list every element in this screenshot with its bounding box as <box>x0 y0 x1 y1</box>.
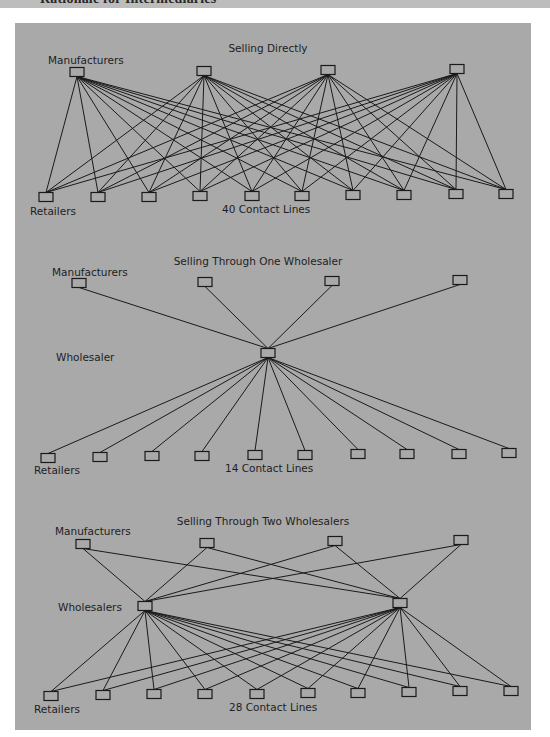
manufacturer-node <box>328 537 342 546</box>
contact-line <box>46 77 77 193</box>
manufacturer-node <box>72 279 86 288</box>
wholesaler-node <box>393 599 407 608</box>
contact-line <box>46 74 457 193</box>
retailer-node <box>295 192 309 201</box>
retailer-node <box>449 190 463 199</box>
retailer-node <box>142 193 156 202</box>
retailers-label: Retailers <box>34 464 80 476</box>
retailer-node <box>245 192 259 201</box>
diagram-selling-directly: Selling Directly Manufacturers Retailers… <box>30 42 513 217</box>
manufacturer-node <box>453 276 467 285</box>
diagram-one-wholesaler: Selling Through One Wholesaler Manufactu… <box>34 255 516 476</box>
retailer-node <box>351 689 365 698</box>
contact-line <box>51 608 400 692</box>
contact-line <box>205 608 400 690</box>
contact-line <box>328 75 353 191</box>
contact-line <box>302 74 457 192</box>
contact-line <box>268 358 459 450</box>
contact-line <box>46 75 328 193</box>
retailer-node <box>91 193 105 202</box>
diagram-title: Selling Through Two Wholesalers <box>177 515 349 527</box>
contact-line <box>51 611 145 692</box>
wholesaler-node <box>138 602 152 611</box>
retailer-node <box>504 687 518 696</box>
retailer-node <box>195 452 209 461</box>
contact-line <box>103 608 400 691</box>
contact-line <box>335 546 400 599</box>
retailer-node <box>193 192 207 201</box>
diagram-two-wholesalers: Selling Through Two Wholesalers Manufact… <box>34 515 518 715</box>
contact-line <box>77 77 456 190</box>
contact-lines <box>51 545 511 692</box>
retailer-node <box>198 690 212 699</box>
manufacturers-label: Manufacturers <box>55 525 131 537</box>
contact-lines <box>48 285 509 454</box>
manufacturer-node <box>200 539 214 548</box>
retailer-node <box>502 449 516 458</box>
retailer-node <box>351 450 365 459</box>
retailer-node <box>96 691 110 700</box>
contact-line <box>400 545 461 599</box>
contact-line <box>255 358 268 451</box>
manufacturer-node <box>197 67 211 76</box>
contact-line <box>200 75 328 192</box>
contact-line <box>77 77 252 192</box>
manufacturer-node <box>70 68 84 77</box>
retailer-node <box>452 450 466 459</box>
contact-line <box>268 358 305 451</box>
manufacturers-label: Manufacturers <box>48 54 124 66</box>
contact-line <box>77 77 200 192</box>
contact-line <box>308 608 400 689</box>
diagram-title: Selling Directly <box>228 42 307 54</box>
contact-lines <box>46 74 506 193</box>
contact-line <box>302 75 328 192</box>
retailer-node <box>402 688 416 697</box>
contact-lines-caption: 14 Contact Lines <box>225 462 313 474</box>
wholesaler-label: Wholesaler <box>56 351 115 363</box>
contact-line <box>152 358 268 452</box>
contact-line <box>268 358 509 449</box>
contact-line <box>268 358 407 450</box>
retailer-node <box>41 454 55 463</box>
retailer-node <box>147 690 161 699</box>
retailer-node <box>397 191 411 200</box>
retailer-node <box>248 451 262 460</box>
contact-line <box>204 76 252 192</box>
retailer-node <box>145 452 159 461</box>
contact-lines-caption: 40 Contact Lines <box>222 203 310 215</box>
retailers-label: Retailers <box>34 703 80 715</box>
contact-line <box>103 611 145 691</box>
manufacturer-node <box>454 536 468 545</box>
contact-line <box>456 74 457 190</box>
manufacturer-node <box>325 277 339 286</box>
manufacturer-node <box>450 65 464 74</box>
manufacturer-node <box>321 66 335 75</box>
retailer-node <box>44 692 58 701</box>
contact-line <box>48 358 268 454</box>
contact-line <box>145 548 207 602</box>
retailers-label: Retailers <box>30 205 76 217</box>
contact-line <box>268 285 460 349</box>
wholesaler-node <box>261 349 275 358</box>
retailer-node <box>400 450 414 459</box>
contact-line <box>77 77 353 191</box>
distribution-channel-figure: Selling Directly Manufacturers Retailers… <box>0 0 550 737</box>
retailer-node <box>453 687 467 696</box>
nodes <box>41 276 516 463</box>
retailer-node <box>93 453 107 462</box>
contact-line <box>268 286 332 349</box>
contact-line <box>79 288 268 349</box>
diagram-title: Selling Through One Wholesaler <box>174 255 343 267</box>
contact-line <box>400 608 409 688</box>
contact-line <box>205 287 268 349</box>
contact-line <box>268 358 358 450</box>
retailer-node <box>250 690 264 699</box>
retailer-node <box>499 190 513 199</box>
retailer-node <box>346 191 360 200</box>
contact-line <box>100 358 268 453</box>
contact-line <box>200 76 204 192</box>
retailer-node <box>39 193 53 202</box>
manufacturer-node <box>76 540 90 549</box>
retailer-node <box>301 689 315 698</box>
manufacturer-node <box>198 278 212 287</box>
